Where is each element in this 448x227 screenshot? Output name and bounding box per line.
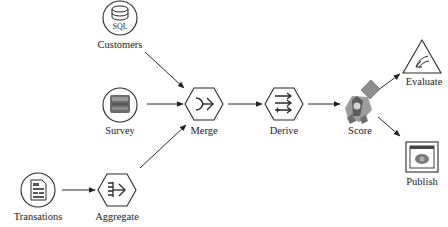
- edge-score-publish: [378, 117, 400, 136]
- node-transations[interactable]: [21, 173, 55, 207]
- node-publish[interactable]: [406, 142, 438, 172]
- label-derive: Derive: [270, 125, 299, 137]
- edge-score-evaluate: [378, 74, 400, 90]
- label-transations: Transations: [14, 211, 63, 223]
- label-publish: Publish: [406, 176, 438, 188]
- label-merge: Merge: [190, 125, 217, 137]
- edge-customers-merge: [145, 52, 184, 88]
- label-customers: Customers: [98, 39, 143, 51]
- label-evaluate: Evaluate: [406, 76, 443, 88]
- label-survey: Survey: [105, 125, 135, 137]
- sql-icon-text: SQL: [112, 22, 127, 31]
- publish-window-icon: [410, 146, 434, 168]
- flow-diagram: SQL: [0, 0, 448, 227]
- label-score: Score: [348, 125, 372, 137]
- label-aggregate: Aggregate: [95, 211, 139, 223]
- node-evaluate[interactable]: [403, 40, 441, 73]
- node-derive[interactable]: [265, 88, 303, 120]
- model-nugget-icon: [345, 80, 380, 124]
- derive-arrows-icon: [275, 93, 291, 113]
- node-aggregate[interactable]: [98, 174, 136, 206]
- edge-aggregate-merge: [140, 125, 186, 168]
- node-merge[interactable]: [185, 88, 223, 120]
- survey-form-icon: [110, 95, 130, 113]
- node-survey[interactable]: [103, 88, 137, 122]
- document-icon: [31, 180, 46, 200]
- node-score[interactable]: [345, 80, 380, 124]
